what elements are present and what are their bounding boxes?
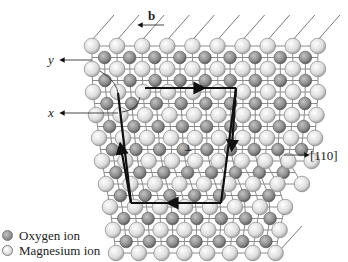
burgers-vector-label: b	[148, 8, 155, 23]
direction-label: [110]	[310, 148, 338, 163]
x-axis-label: x	[47, 105, 54, 120]
legend-magnesium-label: Magnesium ion	[19, 243, 100, 258]
oxygen-ion-icon	[2, 230, 13, 241]
legend-oxygen: Oxygen ion	[0, 228, 100, 243]
legend: Oxygen ion Magnesium ion	[0, 228, 100, 258]
legend-magnesium: Magnesium ion	[0, 243, 100, 258]
edge-dislocation-diagram: byx[110]⊥	[0, 0, 348, 262]
dislocation-symbol: ⊥	[184, 143, 192, 153]
y-axis-label: y	[46, 52, 54, 67]
magnesium-ion-icon	[2, 245, 13, 256]
legend-oxygen-label: Oxygen ion	[19, 228, 80, 243]
